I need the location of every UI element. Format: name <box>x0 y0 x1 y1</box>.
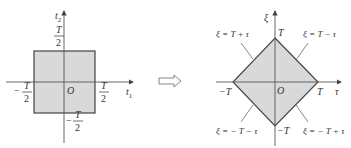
top-vertex-label: T <box>278 27 285 38</box>
transform-arrow-icon <box>159 75 181 87</box>
leader-lower-left <box>241 105 253 122</box>
t1-axis-label: t1 <box>126 86 133 100</box>
diagram-canvas: t2 t1 O T 2 − T 2 − T 2 T 2 <box>0 0 351 148</box>
origin-label-right: O <box>277 85 284 96</box>
svg-text:2: 2 <box>75 122 80 133</box>
leader-lower-right <box>296 105 308 122</box>
right-half-T-label: T 2 <box>99 80 109 104</box>
svg-text:−: − <box>14 85 20 96</box>
svg-text:2: 2 <box>56 37 61 48</box>
edge-eq-lower-right: ξ = − T + τ <box>303 126 345 136</box>
t2-axis-label: t2 <box>55 10 62 24</box>
right-vertex-label: T <box>317 86 324 97</box>
svg-text:2: 2 <box>101 93 106 104</box>
leader-upper-right <box>296 43 308 60</box>
right-panel: ξ τ O T T −T −T ξ = T + τ ξ = T − τ ξ = … <box>216 11 345 146</box>
top-half-T-label: T 2 <box>54 24 64 48</box>
left-panel: t2 t1 O T 2 − T 2 − T 2 T 2 <box>6 10 133 143</box>
left-half-T-label: − T 2 <box>14 80 32 104</box>
origin-label-left: O <box>67 85 74 96</box>
edge-eq-upper-right: ξ = T − τ <box>303 29 337 39</box>
tau-axis-label: τ <box>335 86 339 97</box>
svg-text:−: − <box>66 115 72 126</box>
xi-axis-label: ξ <box>264 12 269 24</box>
left-vertex-label: −T <box>219 86 233 97</box>
bottom-vertex-label: −T <box>277 125 291 136</box>
edge-eq-upper-left: ξ = T + τ <box>216 29 250 39</box>
svg-text:2: 2 <box>24 93 29 104</box>
edge-eq-lower-left: ξ = − T − τ <box>216 126 258 136</box>
leader-upper-left <box>241 43 253 59</box>
svg-text:T: T <box>56 24 63 35</box>
